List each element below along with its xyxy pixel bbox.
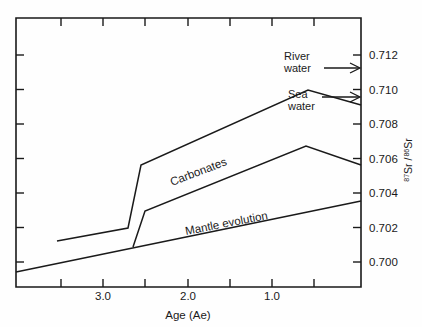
chart-figure: Carbonates Mantle evolution River water …	[0, 0, 422, 327]
river-water-label-line1: River	[284, 50, 310, 62]
y-axis-title-base-2: Sr	[402, 138, 414, 149]
y-axis-right-ticks	[353, 55, 361, 262]
carbonates-lower-envelope-line	[133, 146, 361, 247]
y-tick-label-0700: 0.700	[369, 256, 398, 268]
y-axis-title-sup-86: 86	[403, 149, 410, 157]
y-tick-label-0710: 0.710	[369, 84, 398, 96]
y-tick-label-0702: 0.702	[369, 222, 398, 234]
y-axis-title: 87Sr /86Sr	[402, 138, 414, 182]
strontium-isotope-evolution-chart: Carbonates Mantle evolution River water …	[0, 0, 422, 327]
mantle-evolution-label: Mantle evolution	[184, 209, 269, 237]
x-axis-title: Age (Ae)	[165, 309, 211, 321]
svg-text:87Sr /86Sr: 87Sr /86Sr	[402, 138, 414, 182]
y-tick-label-0706: 0.706	[369, 153, 398, 165]
sea-water-label-line2: water	[287, 100, 315, 112]
carbonates-label: Carbonates	[168, 155, 228, 188]
y-tick-label-0708: 0.708	[369, 118, 398, 130]
y-axis-title-base-1: Sr /	[402, 158, 414, 174]
x-tick-label-10: 1.0	[264, 290, 280, 302]
y-tick-label-0712: 0.712	[369, 49, 398, 61]
x-axis-bottom-ticks	[61, 279, 314, 287]
x-tick-label-20: 2.0	[180, 290, 196, 302]
y-axis-title-sup-87: 87	[403, 174, 410, 182]
y-axis-left-ticks	[16, 55, 24, 262]
sea-water-label-line1: Sea	[288, 88, 308, 100]
annotation-river-water: River water	[283, 50, 360, 74]
x-axis-top-ticks	[61, 18, 314, 26]
river-water-arrow	[324, 63, 360, 73]
annotation-sea-water: Sea water	[287, 88, 360, 112]
x-axis-tick-labels: 3.0 2.0 1.0	[95, 290, 280, 302]
river-water-label-line2: water	[283, 62, 311, 74]
sea-water-arrow	[322, 92, 360, 102]
y-axis-tick-labels: 0.712 0.710 0.708 0.706 0.704 0.702 0.70…	[369, 49, 398, 268]
x-tick-label-30: 3.0	[95, 290, 111, 302]
y-tick-label-0704: 0.704	[369, 187, 398, 199]
